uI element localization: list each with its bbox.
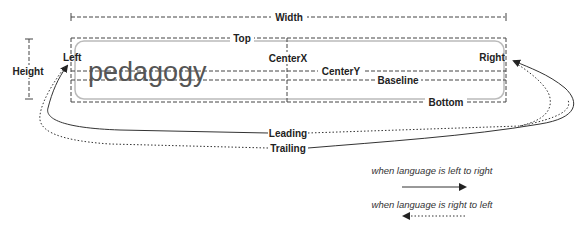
width-dimension: Width [71, 10, 506, 23]
left-label: Left [63, 52, 82, 63]
legend-rtl-text: when language is right to left [372, 199, 493, 210]
layout-attributes-diagram: Width Height pedagogy Top Bottom Left Ri… [0, 0, 584, 227]
height-dimension: Height [10, 39, 46, 99]
leading-dotted-right-inner [514, 62, 550, 126]
legend-ltr-text: when language is left to right [372, 165, 493, 176]
centery-label: CenterY [322, 66, 361, 77]
legend: when language is left to right when lang… [372, 165, 493, 216]
height-label: Height [12, 66, 44, 77]
right-label: Right [479, 52, 505, 63]
baseline-label: Baseline [377, 75, 419, 86]
width-label: Width [275, 12, 303, 23]
trailing-label: Trailing [270, 143, 306, 154]
top-label: Top [233, 33, 251, 44]
bottom-label: Bottom [429, 97, 464, 108]
sample-word: pedagogy [88, 57, 207, 87]
centerx-label: CenterX [269, 53, 308, 64]
leading-label: Leading [269, 128, 307, 139]
